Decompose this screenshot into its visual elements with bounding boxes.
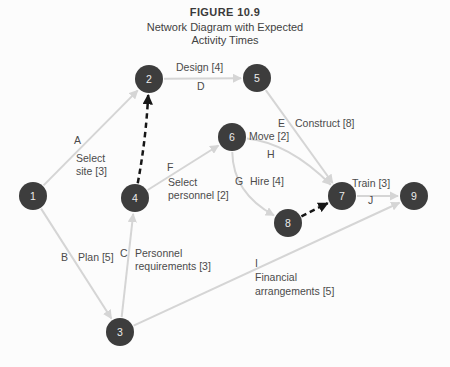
edge-label-letter-i: I xyxy=(255,257,258,269)
edge-label-letter-b: B xyxy=(61,251,68,263)
activity-edge-C xyxy=(122,214,134,317)
edge-label-financial-1: Financial xyxy=(255,271,297,283)
edge-label-move: Move [2] xyxy=(249,130,289,142)
edge-label-personnel-req-1: Personnel xyxy=(135,247,182,259)
edge-label-letter-d: D xyxy=(197,80,205,92)
figure-title-block: FIGURE 10.9 Network Diagram with Expecte… xyxy=(0,6,450,47)
edge-label-train: Train [3] xyxy=(352,177,390,189)
edge-label-letter-e: E xyxy=(278,117,285,129)
node-7: 7 xyxy=(328,182,356,210)
edge-label-letter-h: H xyxy=(267,148,275,160)
edge-label-plan: Plan [5] xyxy=(78,251,114,263)
node-number-3: 3 xyxy=(117,326,123,338)
node-number-4: 4 xyxy=(132,192,138,204)
node-number-7: 7 xyxy=(339,190,345,202)
node-3: 3 xyxy=(106,318,134,346)
dummy-arrow-dummy-4-2 xyxy=(138,95,148,183)
edge-label-design: Design [4] xyxy=(176,61,223,73)
edge-label-select-site-2: site [3] xyxy=(76,165,107,177)
node-number-1: 1 xyxy=(30,190,36,202)
node-number-9: 9 xyxy=(411,190,417,202)
edge-label-select-site-1: Select xyxy=(76,152,105,164)
edge-label-letter-c: C xyxy=(120,247,128,259)
node-9: 9 xyxy=(400,182,428,210)
network-diagram: Design [4]DASelectsite [3]FSelectpersonn… xyxy=(0,0,450,367)
edge-label-construct: Construct [8] xyxy=(295,117,355,129)
node-number-5: 5 xyxy=(254,72,260,84)
node-1: 1 xyxy=(19,182,47,210)
figure-number: FIGURE 10.9 xyxy=(0,6,450,18)
node-6: 6 xyxy=(218,123,246,151)
edge-label-hire: Hire [4] xyxy=(250,175,284,187)
activity-edge-B xyxy=(41,209,111,319)
figure-title-line-1: Network Diagram with Expected xyxy=(0,21,450,34)
edge-label-letter-j: J xyxy=(368,194,373,206)
edge-label-select-personnel-2: personnel [2] xyxy=(168,189,229,201)
edge-label-financial-2: arrangements [5] xyxy=(255,285,334,297)
node-8: 8 xyxy=(274,209,302,237)
edge-label-select-personnel-1: Select xyxy=(168,176,197,188)
node-number-8: 8 xyxy=(285,217,291,229)
edge-label-personnel-req-2: requirements [3] xyxy=(135,260,211,272)
figure-title-line-2: Activity Times xyxy=(0,34,450,47)
node-number-6: 6 xyxy=(229,131,235,143)
activity-edge-D xyxy=(164,78,241,79)
edge-label-letter-g: G xyxy=(235,175,243,187)
node-4: 4 xyxy=(121,184,149,212)
node-5: 5 xyxy=(243,64,271,92)
node-2: 2 xyxy=(135,65,163,93)
edge-label-letter-a: A xyxy=(74,134,81,146)
edge-label-letter-f: F xyxy=(167,161,173,173)
dummy-arrow-dummy-8-7 xyxy=(301,203,327,216)
node-number-2: 2 xyxy=(146,73,152,85)
